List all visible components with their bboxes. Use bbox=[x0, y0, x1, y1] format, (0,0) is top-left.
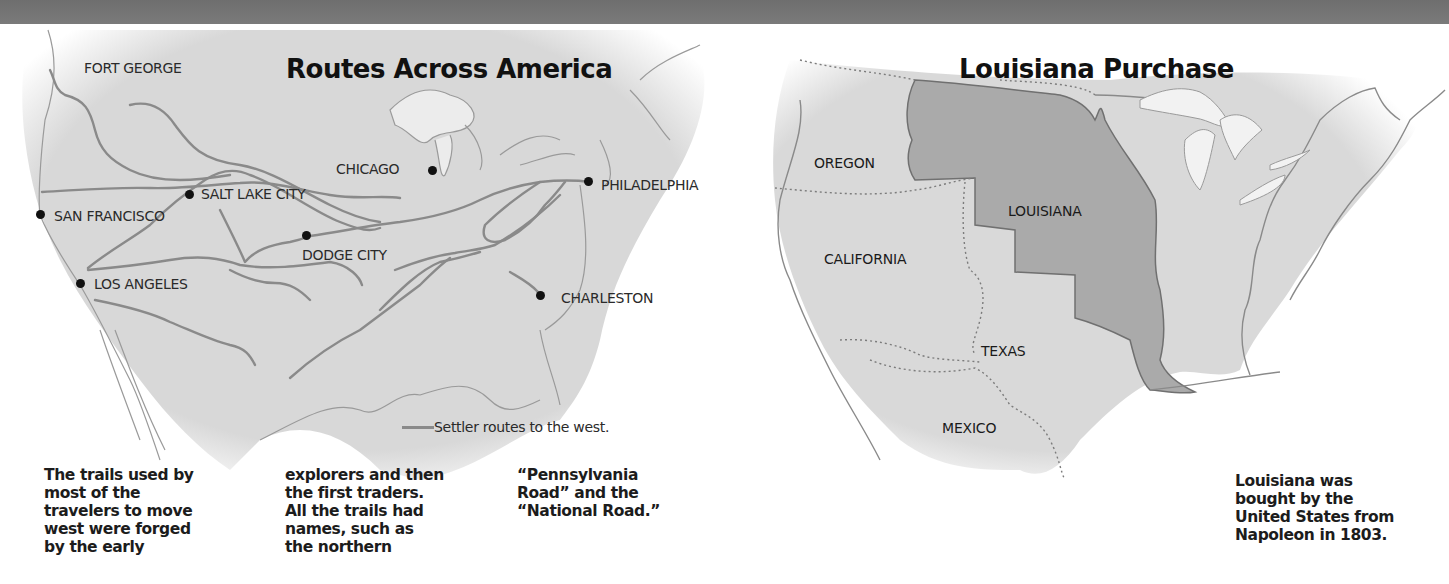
caption-column-3: “Pennsylvania Road” and the “National Ro… bbox=[517, 466, 660, 520]
caption-line: Napoleon in 1803. bbox=[1235, 526, 1394, 544]
place-label-dodge-city: DODGE CITY bbox=[302, 247, 387, 263]
region-label-mexico: MEXICO bbox=[942, 420, 996, 436]
caption-line: The trails used by bbox=[44, 466, 194, 484]
place-label-charleston: CHARLESTON bbox=[561, 290, 653, 306]
city-dot-dodge-city bbox=[302, 231, 311, 240]
caption-line: “National Road.” bbox=[517, 502, 660, 520]
city-dot-salt-lake-city bbox=[185, 190, 194, 199]
caption-column-1: The trails used by most of the travelers… bbox=[44, 466, 194, 556]
louisiana-caption: Louisiana was bought by the United State… bbox=[1235, 472, 1394, 544]
place-label-chicago: CHICAGO bbox=[336, 161, 399, 177]
louisiana-purchase-panel: Louisiana Purchase OREGON LOUISIANA CALI… bbox=[725, 24, 1449, 584]
region-label-louisiana: LOUISIANA bbox=[1008, 203, 1082, 219]
caption-column-2: explorers and then the first traders. Al… bbox=[285, 466, 444, 556]
map-title: Routes Across America bbox=[286, 54, 612, 84]
caption-line: bought by the bbox=[1235, 490, 1394, 508]
region-label-texas: TEXAS bbox=[981, 343, 1025, 359]
caption-line: names, such as bbox=[285, 520, 444, 538]
caption-line: All the trails had bbox=[285, 502, 444, 520]
place-label-philadelphia: PHILADELPHIA bbox=[601, 177, 698, 193]
city-dot-chicago bbox=[428, 166, 437, 175]
caption-line: “Pennsylvania bbox=[517, 466, 660, 484]
caption-line: explorers and then bbox=[285, 466, 444, 484]
top-banner-bar bbox=[0, 0, 1449, 24]
city-dot-charleston bbox=[536, 291, 545, 300]
caption-line: Road” and the bbox=[517, 484, 660, 502]
place-label-fort-george: FORT GEORGE bbox=[84, 60, 182, 76]
region-label-california: CALIFORNIA bbox=[824, 251, 906, 267]
caption-line: the northern bbox=[285, 538, 444, 556]
legend-label: Settler routes to the west. bbox=[434, 419, 609, 435]
caption-line: Louisiana was bbox=[1235, 472, 1394, 490]
gray-line-icon bbox=[402, 426, 434, 429]
city-dot-los-angeles bbox=[76, 279, 85, 288]
city-dot-philadelphia bbox=[584, 177, 593, 186]
place-label-los-angeles: LOS ANGELES bbox=[94, 276, 188, 292]
caption-line: most of the bbox=[44, 484, 194, 502]
caption-line: by the early bbox=[44, 538, 194, 556]
routes-map-panel: Routes Across America FORT GEORGE CHICAG… bbox=[0, 24, 725, 584]
caption-line: the first traders. bbox=[285, 484, 444, 502]
map-title: Louisiana Purchase bbox=[959, 54, 1234, 84]
caption-line: travelers to move bbox=[44, 502, 194, 520]
place-label-san-francisco: SAN FRANCISCO bbox=[54, 208, 165, 224]
city-dot-san-francisco bbox=[36, 210, 45, 219]
caption-line: west were forged bbox=[44, 520, 194, 538]
map-legend: Settler routes to the west. bbox=[402, 419, 609, 435]
caption-line: United States from bbox=[1235, 508, 1394, 526]
region-label-oregon: OREGON bbox=[814, 155, 875, 171]
place-label-salt-lake-city: SALT LAKE CITY bbox=[201, 186, 306, 202]
